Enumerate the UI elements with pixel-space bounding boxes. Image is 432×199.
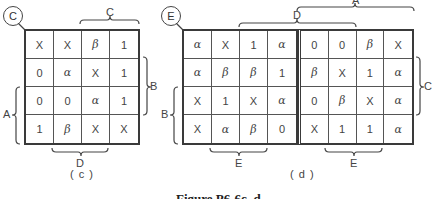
kmap-cell: X [82, 115, 110, 143]
kmap-cell: β [301, 59, 329, 87]
kmap-cell: 0 [54, 87, 82, 115]
kmap-cell: α [268, 87, 296, 115]
map-d-brace-label-bottom-left: E [235, 157, 242, 169]
kmap-cell: α [384, 87, 412, 115]
karnaugh-map-d-right-half: 00βXβX1α0βXαX11α [298, 29, 414, 145]
kmap-cell: 0 [301, 87, 329, 115]
kmap-cell: 1 [110, 87, 138, 115]
kmap-cell: 1 [110, 31, 138, 59]
kmap-cell: X [184, 115, 212, 143]
kmap-cell: 1 [110, 59, 138, 87]
kmap-cell: X [184, 87, 212, 115]
map-d-brace-label-top-outer: A [352, 0, 359, 6]
kmap-cell: α [384, 115, 412, 143]
kmap-cell: 1 [26, 115, 54, 143]
map-d-brace-label-right: C [424, 80, 432, 92]
kmap-cell: 1 [357, 115, 385, 143]
kmap-cell: 0 [26, 59, 54, 87]
kmap-cell: α [384, 59, 412, 87]
kmap-cell: α [268, 31, 296, 59]
kmap-cell: α [82, 87, 110, 115]
kmap-cell: α [184, 31, 212, 59]
kmap-cell: X [357, 87, 385, 115]
map-c-id-circle: C [3, 6, 23, 26]
kmap-cell: 0 [301, 31, 329, 59]
kmap-cell: 1 [268, 59, 296, 87]
figure-caption: Figure P6-6c, d [176, 191, 261, 199]
kmap-cell: α [54, 59, 82, 87]
kmap-cell: β [240, 115, 268, 143]
kmap-cell: 1 [357, 59, 385, 87]
map-c-brace-label-left: A [3, 108, 10, 120]
kmap-cell: X [82, 59, 110, 87]
map-c-id-label: C [9, 10, 17, 22]
kmap-cell: X [301, 115, 329, 143]
kmap-cell: 1 [329, 115, 357, 143]
map-d-brace-label-bottom-right: E [350, 157, 357, 169]
kmap-cell: β [54, 115, 82, 143]
kmap-cell: β [357, 31, 385, 59]
kmap-cell: X [240, 87, 268, 115]
kmap-cell: β [329, 87, 357, 115]
map-c-brace-label-right: B [150, 80, 157, 92]
kmap-cell: X [110, 115, 138, 143]
kmap-cell: 1 [240, 31, 268, 59]
karnaugh-map-d-left-half: αX1ααββ1X1XαXαβ0 [182, 29, 298, 145]
kmap-cell: X [54, 31, 82, 59]
kmap-cell: X [384, 31, 412, 59]
map-d-caption: ( d ) [290, 168, 315, 180]
map-c-caption: ( c ) [70, 168, 94, 180]
kmap-cell: X [26, 31, 54, 59]
map-d-brace-label-top-inner: D [293, 9, 301, 21]
map-d-brace-label-left: B [161, 108, 168, 120]
kmap-cell: 1 [212, 87, 240, 115]
kmap-cell: 0 [26, 87, 54, 115]
map-d-id-label: E [167, 10, 174, 22]
kmap-cell: β [82, 31, 110, 59]
map-d-id-circle: E [161, 6, 181, 26]
kmap-cell: α [184, 59, 212, 87]
kmap-cell: 0 [329, 31, 357, 59]
karnaugh-map-c: XXβ10αX100α11βXX [24, 29, 140, 145]
kmap-cell: α [212, 115, 240, 143]
kmap-cell: β [212, 59, 240, 87]
kmap-cell: β [240, 59, 268, 87]
map-c-brace-label-top: C [106, 6, 114, 18]
kmap-cell: X [329, 59, 357, 87]
kmap-cell: X [212, 31, 240, 59]
kmap-cell: 0 [268, 115, 296, 143]
